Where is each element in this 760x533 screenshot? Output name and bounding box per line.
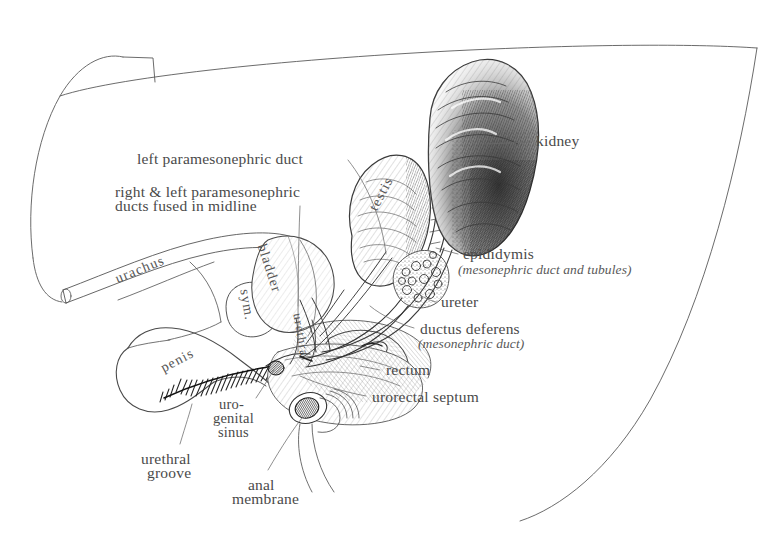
label-ureter: ureter: [441, 293, 478, 310]
label-fused-ducts-line2: ducts fused in midline: [115, 197, 257, 214]
label-rectum: rectum: [386, 361, 430, 378]
label-ductus-deferens-sub: (mesonephric duct): [418, 336, 524, 351]
anatomical-figure: left paramesonephric duct right & left p…: [0, 0, 760, 533]
kidney: [424, 54, 544, 265]
label-ductus-deferens: ductus deferens: [420, 320, 520, 337]
label-urogenital-sinus-line3: sinus: [218, 424, 249, 440]
label-urethral-groove-line2: groove: [147, 464, 191, 481]
label-epididymis: epididymis: [463, 245, 534, 262]
anatomy-drawing: [0, 0, 760, 533]
label-urorectal-septum: urorectal septum: [372, 388, 479, 405]
label-kidney: kidney: [536, 132, 579, 149]
urethral-groove-shading: [160, 368, 272, 402]
label-epididymis-sub: (mesonephric duct and tubules): [458, 262, 632, 277]
label-anal-membrane-line2: membrane: [232, 490, 299, 507]
penis: [116, 328, 272, 412]
label-left-paramesonephric-duct: left paramesonephric duct: [137, 150, 303, 167]
